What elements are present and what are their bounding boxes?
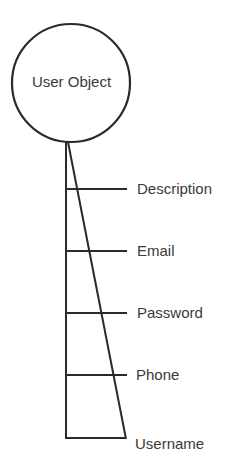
attribute-password: Password xyxy=(137,305,203,320)
diagram-canvas xyxy=(0,0,239,469)
attribute-email: Email xyxy=(137,243,175,258)
root-node-label: User Object xyxy=(12,74,131,89)
attribute-phone: Phone xyxy=(136,367,179,382)
attribute-username: Username xyxy=(135,436,204,451)
diagonal-line xyxy=(68,142,126,439)
attribute-description: Description xyxy=(137,181,212,196)
